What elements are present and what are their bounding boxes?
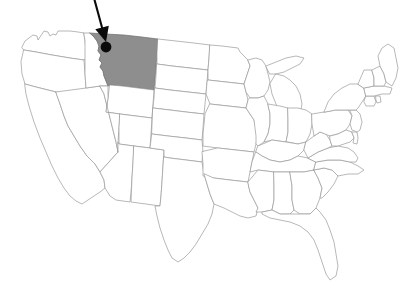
states-layer: WashingtonOregonCaliforniaNevadaIdahoMon…	[21, 31, 398, 280]
state-oh[interactable]: Ohio	[286, 108, 312, 144]
us-states-map[interactable]: WashingtonOregonCaliforniaNevadaIdahoMon…	[0, 0, 405, 289]
state-co[interactable]: Colorado	[119, 114, 152, 148]
marker-layer	[101, 42, 112, 53]
state-nm[interactable]: New Mexico	[131, 146, 164, 206]
state-ri[interactable]: Rhode Island	[376, 96, 381, 103]
state-fl[interactable]: Florida	[262, 208, 338, 280]
state-nj[interactable]: New Jersey	[350, 110, 362, 132]
state-ny[interactable]: New York	[324, 84, 366, 112]
state-ct[interactable]: Connecticut	[364, 96, 376, 106]
pointer-arrow-shaft	[94, 0, 103, 30]
state-vt[interactable]: Vermont	[358, 70, 374, 88]
state-mn[interactable]: Minnesota	[208, 45, 250, 84]
state-ia[interactable]: Iowa	[206, 80, 248, 108]
us-map-figure: Map of the United States WashingtonOrego…	[0, 0, 405, 289]
location-dot[interactable]	[101, 42, 112, 53]
